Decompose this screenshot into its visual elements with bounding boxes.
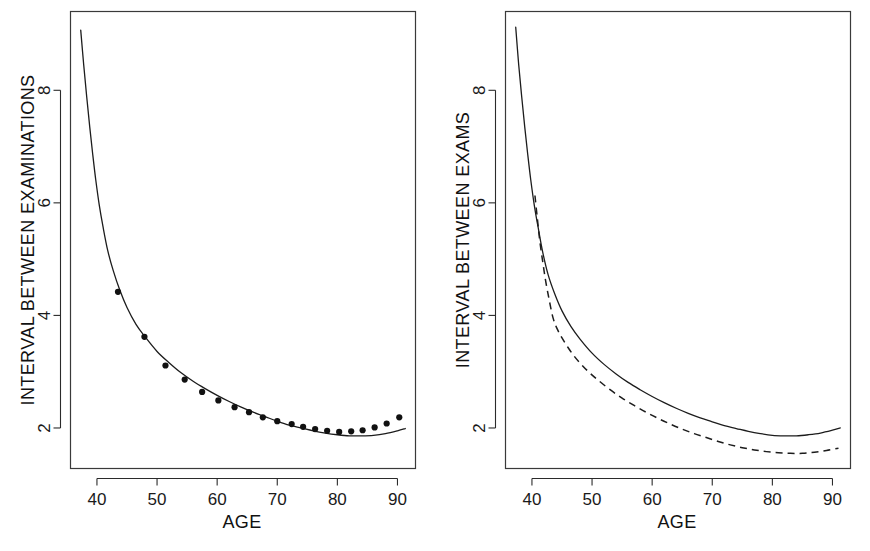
right-data-series <box>516 27 841 453</box>
chart-panel-left: 405060708090 2468 AGE INTERVAL BETWEEN E… <box>0 0 435 551</box>
x-tick-label: 90 <box>823 490 842 509</box>
x-tick-label: 90 <box>388 490 407 509</box>
left-y-axis: 2468 <box>36 86 61 433</box>
x-tick-label: 70 <box>703 490 722 509</box>
x-tick-label: 70 <box>268 490 287 509</box>
y-tick-label: 8 <box>471 86 490 95</box>
x-tick-label: 40 <box>87 490 106 509</box>
y-tick-label: 2 <box>36 423 55 432</box>
data-point-marker <box>231 404 237 410</box>
right-x-axis-title: AGE <box>657 512 696 532</box>
y-tick-label: 4 <box>471 311 490 320</box>
data-point-marker <box>348 428 354 434</box>
data-point-marker <box>324 428 330 434</box>
data-point-marker <box>246 409 252 415</box>
data-point-marker <box>312 426 318 432</box>
x-tick-label: 60 <box>643 490 662 509</box>
figure-canvas: 405060708090 2468 AGE INTERVAL BETWEEN E… <box>0 0 870 551</box>
data-point-marker <box>274 418 280 424</box>
right-y-axis-title: INTERVAL BETWEEN EXAMS <box>453 112 473 369</box>
solid-curve-path <box>81 30 406 436</box>
right-chart-svg: 405060708090 2468 AGE INTERVAL BETWEEN E… <box>435 0 870 551</box>
left-x-axis-title: AGE <box>222 512 261 532</box>
data-point-marker <box>384 420 390 426</box>
data-point-marker <box>300 424 306 430</box>
solid-curve-path <box>516 27 841 436</box>
data-point-marker <box>336 429 342 435</box>
right-plot-frame <box>506 12 851 469</box>
left-y-axis-title: INTERVAL BETWEEN EXAMINATIONS <box>18 75 38 406</box>
x-tick-label: 60 <box>208 490 227 509</box>
left-chart-svg: 405060708090 2468 AGE INTERVAL BETWEEN E… <box>0 0 435 551</box>
y-tick-label: 2 <box>471 423 490 432</box>
y-tick-label: 6 <box>471 198 490 207</box>
y-tick-label: 6 <box>36 198 55 207</box>
data-point-marker <box>215 397 221 403</box>
data-point-marker <box>396 414 402 420</box>
data-point-marker <box>199 389 205 395</box>
y-tick-label: 4 <box>36 311 55 320</box>
dashed-curve-path <box>535 196 839 454</box>
left-x-axis: 405060708090 <box>87 479 406 510</box>
data-point-marker <box>372 424 378 430</box>
chart-panel-right: 405060708090 2468 AGE INTERVAL BETWEEN E… <box>435 0 870 551</box>
x-tick-label: 50 <box>583 490 602 509</box>
right-y-axis: 2468 <box>471 86 496 433</box>
data-point-marker <box>360 427 366 433</box>
data-point-marker <box>162 362 168 368</box>
data-point-marker <box>289 421 295 427</box>
data-point-marker <box>141 334 147 340</box>
x-tick-label: 80 <box>763 490 782 509</box>
x-tick-label: 80 <box>328 490 347 509</box>
x-tick-label: 40 <box>522 490 541 509</box>
data-point-marker <box>182 376 188 382</box>
x-tick-label: 50 <box>148 490 167 509</box>
y-tick-label: 8 <box>36 86 55 95</box>
left-plot-frame <box>71 12 416 469</box>
data-point-marker <box>260 414 266 420</box>
left-data-series <box>81 30 406 436</box>
right-x-axis: 405060708090 <box>522 479 841 510</box>
data-point-marker <box>115 289 121 295</box>
